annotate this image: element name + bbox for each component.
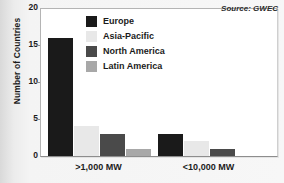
bar bbox=[74, 126, 99, 156]
y-axis-tick-label: 5 bbox=[16, 114, 38, 123]
legend-swatch-icon bbox=[86, 31, 97, 42]
x-axis-tick-label: <10,000 MW bbox=[149, 162, 269, 172]
legend-item-label: Asia-Pacific bbox=[103, 32, 154, 41]
legend-swatch-icon bbox=[86, 46, 97, 57]
bar bbox=[210, 149, 235, 156]
legend-item: Europe bbox=[86, 14, 165, 28]
chart-figure: Number of Countries 05101520 Source: GWE… bbox=[0, 0, 284, 183]
legend-item-label: Latin America bbox=[103, 62, 162, 71]
y-axis-tick-label: 15 bbox=[16, 40, 38, 49]
legend-item: North America bbox=[86, 44, 165, 58]
source-note: Source: GWEC bbox=[221, 4, 278, 13]
legend-item-label: North America bbox=[103, 47, 165, 56]
legend-swatch-icon bbox=[86, 61, 97, 72]
legend-item-label: Europe bbox=[103, 17, 134, 26]
legend-swatch-icon bbox=[86, 16, 97, 27]
legend-item: Latin America bbox=[86, 59, 165, 73]
y-axis-tick-label: 20 bbox=[16, 3, 38, 12]
bar bbox=[48, 38, 73, 156]
bar bbox=[100, 134, 125, 156]
bar bbox=[126, 149, 151, 156]
y-axis-tick-label: 10 bbox=[16, 77, 38, 86]
bar bbox=[158, 134, 183, 156]
chart-legend: EuropeAsia-PacificNorth AmericaLatin Ame… bbox=[86, 14, 165, 74]
legend-item: Asia-Pacific bbox=[86, 29, 165, 43]
x-axis-tick-label: >1,000 MW bbox=[39, 162, 159, 172]
y-axis-tick-label: 0 bbox=[16, 151, 38, 160]
bar bbox=[184, 141, 209, 156]
y-axis-title: Number of Countries bbox=[12, 0, 22, 126]
